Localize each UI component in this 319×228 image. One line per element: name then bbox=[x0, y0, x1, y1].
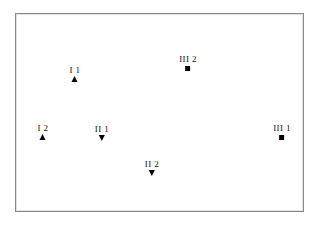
data-point-marker-wrap bbox=[70, 76, 81, 84]
data-point-label: I 1 bbox=[70, 65, 81, 75]
data-point: I 1 bbox=[70, 65, 81, 84]
data-point-marker-wrap bbox=[273, 134, 291, 142]
data-point-label: II 1 bbox=[95, 124, 109, 134]
triangle-down-marker-icon bbox=[99, 135, 105, 141]
data-point-label: III 1 bbox=[273, 123, 291, 133]
data-point-marker-wrap bbox=[145, 170, 159, 178]
plot-frame: I 1I 2II 1II 2III 1III 2 bbox=[15, 13, 304, 212]
square-marker-icon bbox=[280, 135, 285, 140]
data-point-marker-wrap bbox=[38, 134, 49, 142]
data-point-label: I 2 bbox=[38, 123, 49, 133]
data-point: II 2 bbox=[145, 159, 159, 178]
data-point: II 1 bbox=[95, 124, 109, 143]
data-point-label: III 2 bbox=[179, 54, 197, 64]
data-point-label: II 2 bbox=[145, 159, 159, 169]
square-marker-icon bbox=[186, 66, 191, 71]
data-point: III 1 bbox=[273, 123, 291, 142]
data-point: III 2 bbox=[179, 54, 197, 73]
figure-root: I 1I 2II 1II 2III 1III 2 bbox=[0, 0, 319, 228]
triangle-down-marker-icon bbox=[149, 170, 155, 176]
triangle-up-marker-icon bbox=[40, 134, 46, 140]
data-point: I 2 bbox=[38, 123, 49, 142]
data-point-marker-wrap bbox=[95, 135, 109, 143]
data-point-marker-wrap bbox=[179, 65, 197, 73]
triangle-up-marker-icon bbox=[72, 76, 78, 82]
